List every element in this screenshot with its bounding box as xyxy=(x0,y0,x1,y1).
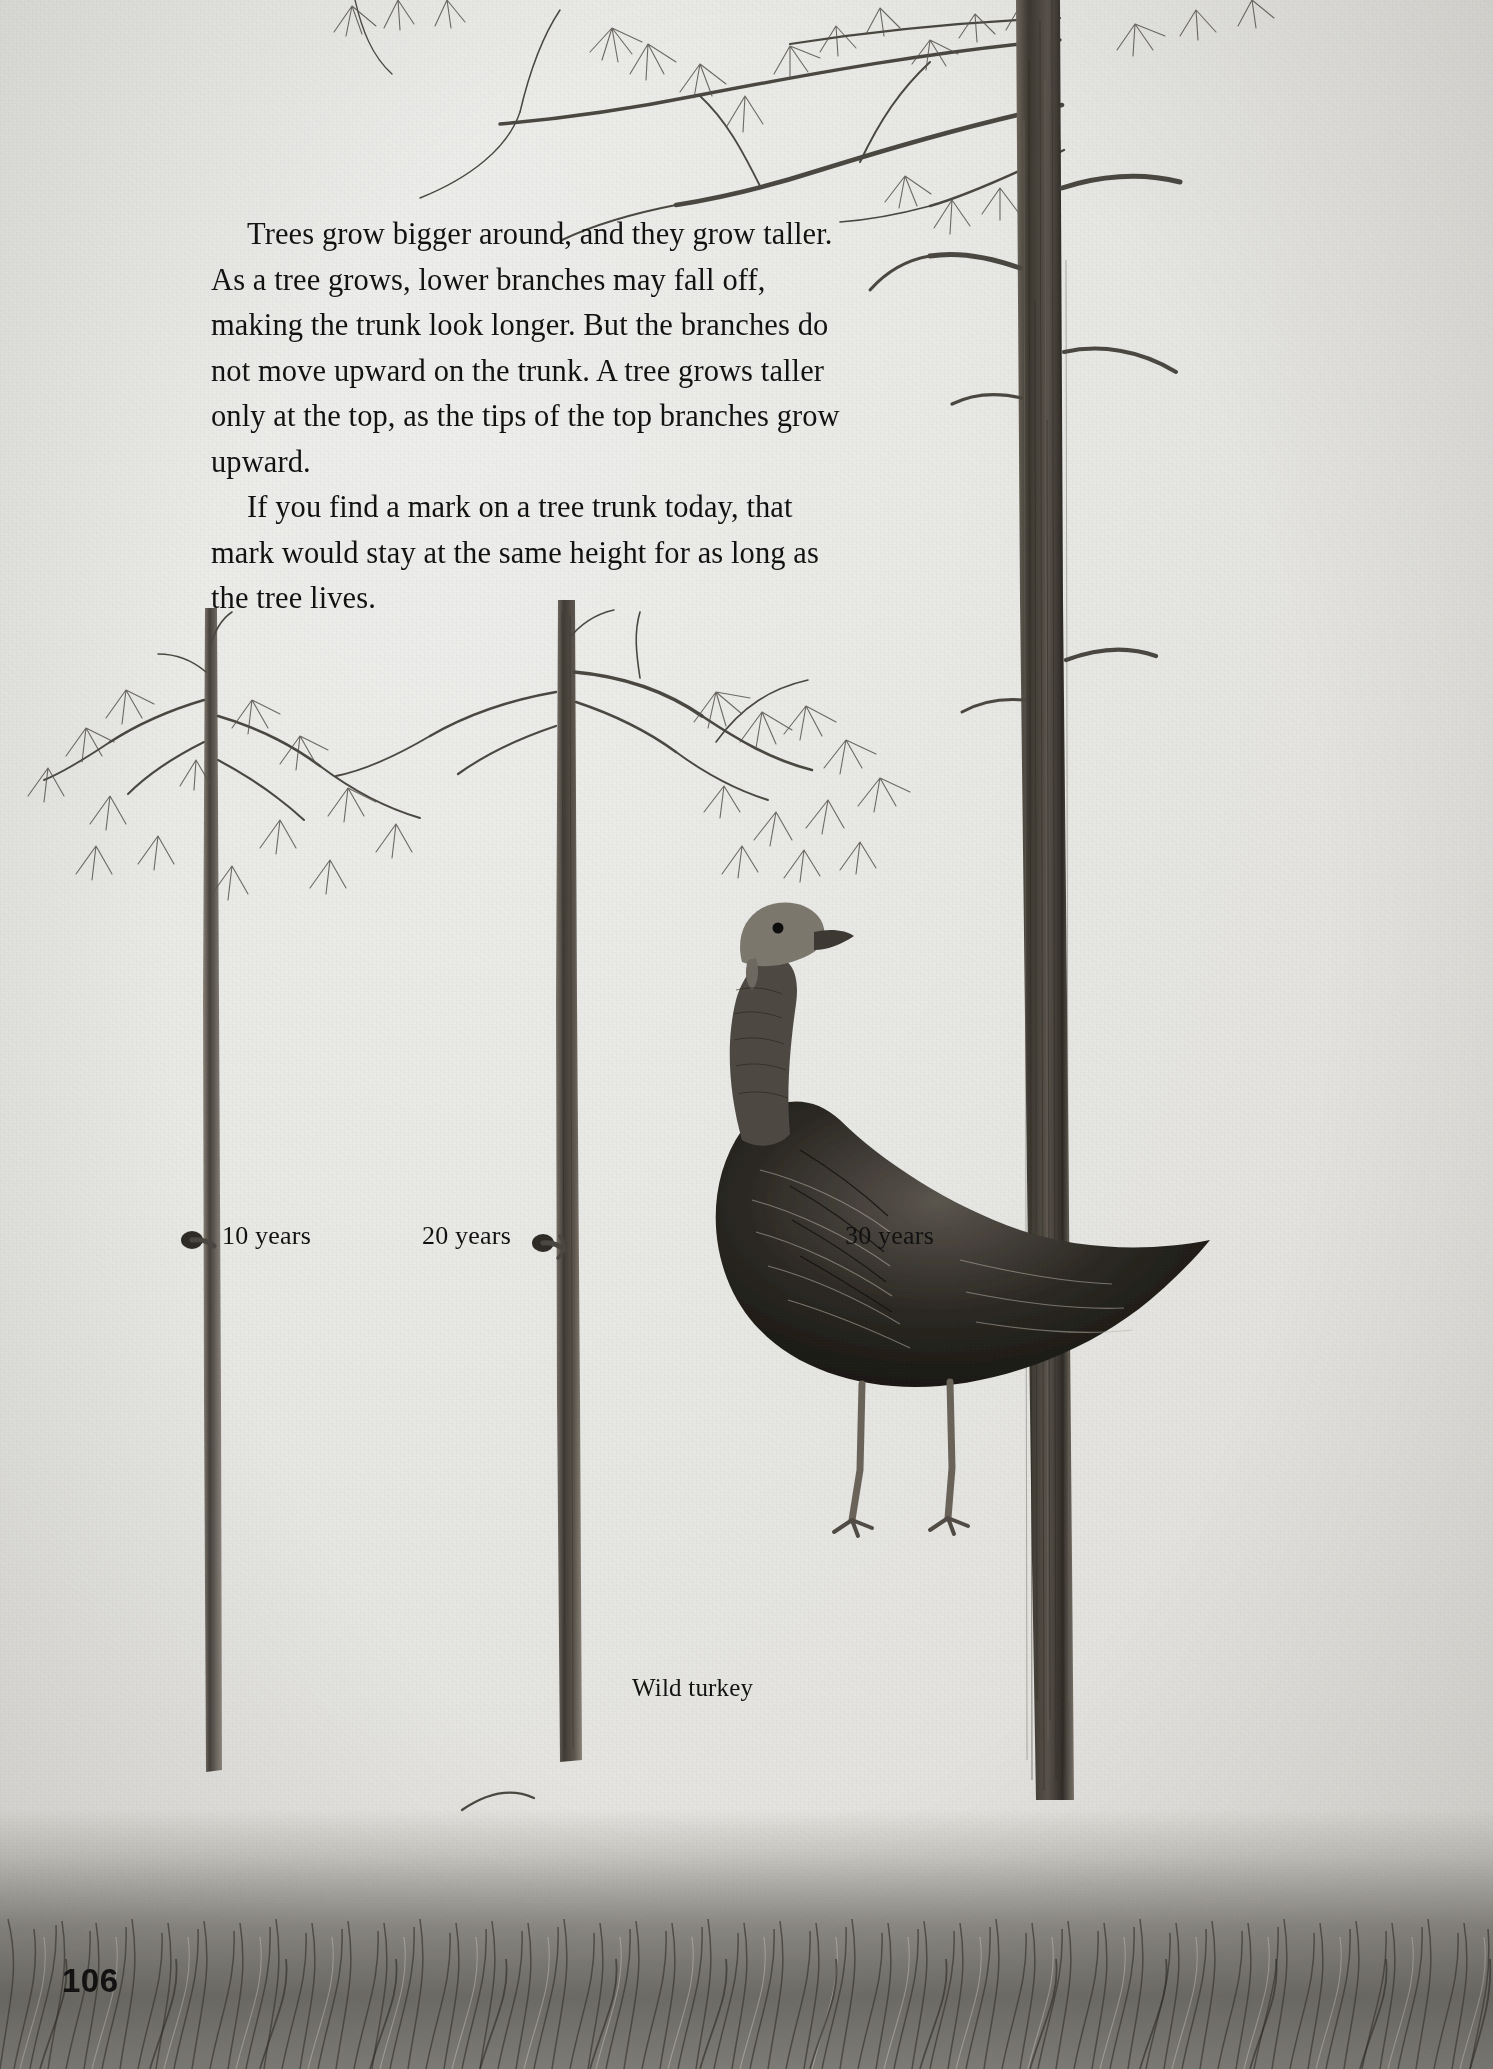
body-text-block: Trees grow bigger around, and they grow … xyxy=(211,212,851,622)
canopy-top xyxy=(334,0,1274,240)
label-tree-10-years: 10 years xyxy=(222,1221,311,1251)
paragraph-1-text: Trees grow bigger around, and they grow … xyxy=(211,217,840,479)
trunk-mark-20 xyxy=(532,1234,564,1258)
label-wild-turkey: Wild turkey xyxy=(632,1674,753,1702)
book-page: Trees grow bigger around, and they grow … xyxy=(0,0,1493,2069)
tree-10-years xyxy=(28,608,420,1772)
tree-30-years xyxy=(870,0,1180,1800)
label-tree-20-years: 20 years xyxy=(422,1221,511,1251)
paragraph-2: If you find a mark on a tree trunk today… xyxy=(211,485,851,622)
page-number: 106 xyxy=(62,1962,119,2000)
wild-turkey xyxy=(716,902,1210,1536)
paragraph-2-text: If you find a mark on a tree trunk today… xyxy=(211,490,819,615)
label-tree-30-years: 30 years xyxy=(845,1221,934,1251)
grass-band xyxy=(0,1769,1493,2069)
paragraph-1: Trees grow bigger around, and they grow … xyxy=(211,212,851,485)
